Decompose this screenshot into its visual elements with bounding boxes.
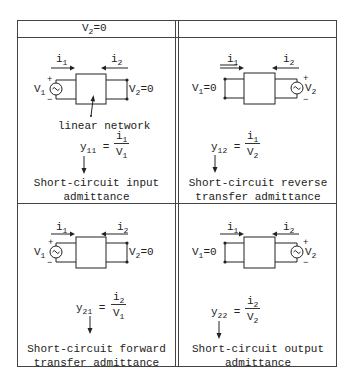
minus-sign: − (303, 96, 308, 105)
description-line-2: transfer admittance (18, 358, 175, 369)
current-i2-label: i2 (283, 54, 294, 65)
description-line-1: Short-circuit output (179, 344, 337, 355)
param-y22: y22 = (211, 307, 240, 318)
voltage-v2-label: V2=0 (129, 84, 154, 95)
cell-y21: + − i1 i2 V1 V2=0 y21 = i2 V1 Short-circ… (18, 204, 175, 367)
current-i2-label: i2 (117, 222, 128, 233)
voltage-v1-label: V1=0 (192, 83, 217, 94)
description-line-2: admittance (179, 358, 337, 369)
param-y21: y21 = (76, 303, 105, 314)
voltage-v2-label: V2 (305, 247, 316, 258)
description-line-1: Short-circuit input (18, 178, 175, 189)
voltage-v1-label: V1=0 (192, 247, 217, 258)
description-line-1: Short-circuit forward (18, 344, 175, 355)
down-arrow-icon (214, 321, 224, 341)
formula-fraction: i2 V1 (111, 291, 126, 319)
plus-sign: + (48, 239, 53, 248)
cell-y12: + − i1 i2 V1=0 V2 y12 = i1 V2 Short-circ… (179, 38, 337, 203)
header-left-condition: V2=0 (82, 23, 107, 34)
minus-sign: − (303, 259, 308, 268)
param-y12: y12 = (211, 142, 240, 153)
current-i2-label: i2 (283, 222, 294, 233)
formula-fraction: i2 V2 (245, 295, 260, 323)
formula-fraction: i1 V2 (245, 130, 260, 158)
minus-sign: − (47, 259, 52, 268)
formula-fraction: i1 V1 (114, 130, 129, 158)
current-i2-label: i2 (111, 54, 122, 65)
cell-y22: + − i1 i2 V1=0 V2 y22 = i2 V2 Short-circ… (179, 204, 337, 367)
description-line-1: Short-circuit reverse (179, 178, 337, 189)
current-i1-label: i1 (56, 222, 67, 233)
down-arrow-icon (210, 155, 220, 175)
voltage-v2-label: V2=0 (129, 247, 154, 258)
voltage-v1-label: V1 (34, 247, 45, 258)
voltage-v2-label: V2 (305, 83, 316, 94)
two-port-circuit (179, 38, 337, 118)
plus-sign: + (47, 76, 52, 85)
network-label: linear network (58, 121, 150, 132)
down-arrow-icon (79, 156, 89, 176)
two-port-circuit (179, 204, 337, 284)
cell-y11: + − i1 i2 V1 V2=0 linear network y11 = i… (18, 38, 175, 203)
description-line-2: admittance (18, 192, 175, 203)
current-i1-label: i1 (227, 222, 238, 233)
description-line-2: transfer admittance (179, 192, 337, 203)
current-i1-label: i1 (227, 54, 238, 65)
param-y11: y11 = (80, 142, 109, 153)
down-arrow-icon (85, 316, 95, 336)
two-port-circuit (18, 38, 175, 118)
voltage-v1-label: V1 (34, 84, 45, 95)
column-divider (175, 20, 176, 367)
current-i1-label: i1 (56, 54, 67, 65)
minus-sign: − (47, 96, 52, 105)
two-port-circuit (18, 204, 175, 284)
